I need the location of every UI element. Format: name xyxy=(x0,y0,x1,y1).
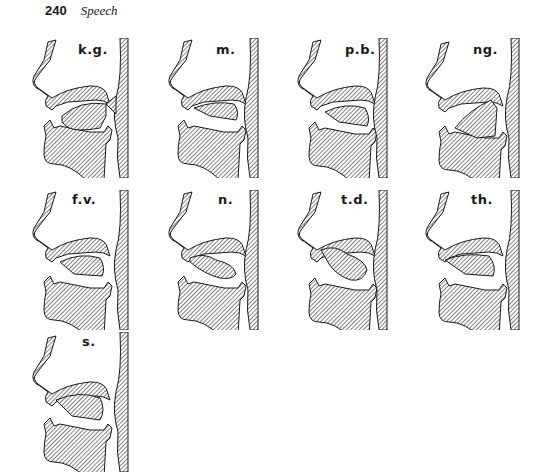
figure-label: k.g. xyxy=(78,42,108,57)
figure-label: f.v. xyxy=(72,192,96,207)
vocal-tract-diagram-p-b xyxy=(285,38,415,178)
figure-m: m. xyxy=(160,38,290,178)
vocal-tract-diagram-s xyxy=(20,332,150,472)
figure-f-v: f.v. xyxy=(20,190,150,330)
vocal-tract-diagram-t-d xyxy=(285,190,415,330)
figure-th: th. xyxy=(415,190,545,330)
figure-t-d: t.d. xyxy=(285,190,415,330)
vocal-tract-diagram-n xyxy=(160,190,290,330)
vocal-tract-diagram-m xyxy=(160,38,290,178)
figure-label: n. xyxy=(218,192,233,207)
page-number: 240 xyxy=(45,3,67,18)
figure-label: th. xyxy=(471,192,493,207)
vocal-tract-diagram-f-v xyxy=(20,190,150,330)
page-header: 240 Speech xyxy=(45,3,118,19)
running-title: Speech xyxy=(81,3,118,19)
figure-label: t.d. xyxy=(341,192,368,207)
figure-label: ng. xyxy=(473,42,498,57)
figure-n: n. xyxy=(160,190,290,330)
figure-p-b: p.b. xyxy=(285,38,415,178)
figure-ng: ng. xyxy=(415,38,545,178)
vocal-tract-diagram-k-g xyxy=(20,38,150,178)
vocal-tract-diagram-ng xyxy=(415,38,545,178)
figure-k-g: k.g. xyxy=(20,38,150,178)
figure-s: s. xyxy=(20,332,150,472)
figure-label: p.b. xyxy=(345,42,376,57)
figure-label: s. xyxy=(82,334,96,349)
figure-label: m. xyxy=(216,42,235,57)
vocal-tract-diagram-th xyxy=(415,190,545,330)
